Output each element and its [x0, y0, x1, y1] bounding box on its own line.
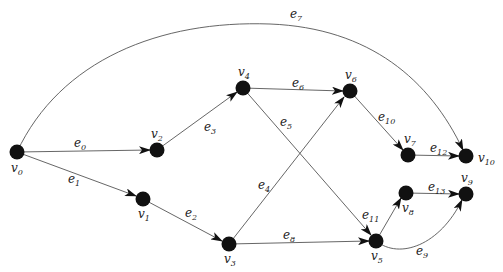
edge-label-e0: e0 — [74, 136, 86, 152]
edge-e1 — [17, 152, 136, 196]
node-v6 — [343, 84, 358, 99]
node-label-v2: v2 — [151, 127, 163, 143]
edge-e5 — [243, 88, 371, 235]
node-v10 — [459, 149, 474, 164]
edge-label-e5: e5 — [280, 115, 292, 131]
edge-label-e9: e9 — [416, 244, 428, 260]
edge-e12 — [408, 155, 459, 156]
nodes-layer — [10, 81, 474, 252]
edge-e8 — [229, 241, 369, 244]
edge-label-e3: e3 — [204, 120, 216, 136]
node-label-v7: v7 — [404, 132, 417, 148]
node-v9 — [459, 187, 474, 202]
node-v1 — [136, 192, 151, 207]
node-v3 — [222, 237, 237, 252]
node-v2 — [150, 143, 165, 158]
edge-label-e7: e7 — [290, 7, 303, 23]
node-v0 — [10, 145, 25, 160]
edge-label-e6: e6 — [292, 76, 304, 92]
node-label-v4: v4 — [238, 65, 250, 81]
edge-label-e10: e10 — [378, 110, 395, 126]
edge-label-e11: e11 — [362, 208, 379, 224]
node-label-v1: v1 — [138, 207, 150, 223]
node-v7 — [401, 148, 416, 163]
edge-e2 — [143, 199, 222, 241]
node-v4 — [236, 81, 251, 96]
node-label-v3: v3 — [224, 252, 236, 268]
edge-label-e2: e2 — [185, 206, 197, 222]
edge-label-e12: e12 — [430, 141, 447, 157]
edge-e3 — [157, 92, 237, 150]
edges-layer — [17, 24, 463, 249]
node-label-v10: v10 — [478, 151, 495, 167]
node-v8 — [399, 186, 414, 201]
edge-e9 — [376, 200, 462, 249]
node-label-v0: v0 — [11, 161, 23, 177]
directed-graph: e0e1e2e3e4e5e6e7e8e9e10e11e12e13v0v1v2v3… — [0, 0, 503, 272]
edge-label-e13: e13 — [428, 180, 445, 196]
node-label-v5: v5 — [371, 249, 383, 265]
edge-label-e4: e4 — [258, 178, 270, 194]
node-label-v9: v9 — [461, 171, 473, 187]
node-label-v8: v8 — [402, 201, 414, 217]
node-label-v6: v6 — [345, 68, 357, 84]
edge-label-e8: e8 — [283, 228, 295, 244]
node-v5 — [369, 234, 384, 249]
labels-layer: e0e1e2e3e4e5e6e7e8e9e10e11e12e13v0v1v2v3… — [11, 7, 495, 268]
